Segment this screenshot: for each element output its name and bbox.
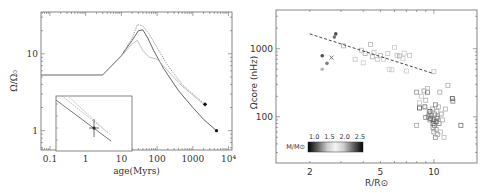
data-square (442, 135, 446, 139)
colorbar (308, 142, 363, 152)
y-tick-label: 100 (256, 112, 273, 122)
x-tick-label: 100 (149, 154, 166, 164)
colorbar-tick-label: 2.0 (339, 133, 349, 141)
data-square (417, 106, 421, 110)
data-circle (320, 67, 324, 71)
x-tick-label: 10 (116, 154, 128, 164)
x-tick-label: 0.1 (43, 154, 57, 164)
left-plot: 0.1110100100010⁴110age(Myrs)Ω/Ω₀ (0, 0, 245, 193)
data-square (353, 57, 357, 61)
x-tick-label: 5 (378, 167, 384, 177)
colorbar-tick-label: 2.5 (355, 133, 365, 141)
data-square (404, 69, 408, 73)
data-square (363, 52, 367, 56)
data-square (443, 107, 447, 111)
data-square (417, 101, 421, 105)
data-square (419, 94, 423, 98)
data-square (459, 123, 463, 127)
x-tick-label: 1 (83, 154, 89, 164)
data-circle (334, 32, 338, 36)
x-tick-label: 2 (307, 167, 313, 177)
colorbar-tick-label: 1.5 (324, 133, 334, 141)
y-axis-label: Ωcore (nHz) (249, 56, 259, 109)
y-tick-label: 1 (32, 126, 38, 136)
y-axis-label: Ω/Ω₀ (9, 70, 19, 92)
data-cross (329, 56, 333, 60)
data-circle (320, 54, 324, 58)
right-chart: 25101001000R/R⊙Ωcore (nHz)1.01.52.02.5M/… (245, 0, 489, 193)
x-tick-label: 10⁴ (221, 154, 236, 164)
data-square (432, 70, 436, 74)
data-square (423, 105, 427, 109)
data-circle (325, 62, 329, 66)
y-tick-label: 10 (27, 49, 39, 59)
data-square (402, 51, 406, 55)
plot-frame (276, 10, 477, 163)
data-circle (333, 35, 337, 39)
fit-line (310, 34, 434, 74)
data-square (386, 52, 390, 56)
left-chart: 0.1110100100010⁴110age(Myrs)Ω/Ω₀ (0, 0, 245, 193)
data-square (392, 45, 396, 49)
x-axis-label: age(Myrs) (113, 166, 160, 176)
marker-sun-now (215, 129, 218, 132)
data-square (361, 61, 365, 65)
data-square (415, 123, 419, 127)
data-square (370, 55, 374, 59)
x-tick-label: 10 (428, 167, 440, 177)
colorbar-label: M/M⊙ (286, 143, 305, 151)
data-square (439, 130, 443, 134)
data-square (369, 43, 373, 47)
y-tick-label: 1000 (250, 44, 273, 54)
data-square (415, 90, 419, 94)
x-tick-label: 1000 (181, 154, 204, 164)
x-axis-label: R/R⊙ (365, 178, 388, 188)
data-square (438, 90, 442, 94)
data-square (424, 98, 428, 102)
ticks (276, 10, 477, 163)
colorbar-tick-label: 1.0 (309, 133, 319, 141)
right-plot: 25101001000R/R⊙Ωcore (nHz)1.01.52.02.5M/… (245, 0, 489, 193)
data-square (446, 83, 450, 87)
data-square (408, 53, 412, 57)
inset (56, 96, 132, 151)
